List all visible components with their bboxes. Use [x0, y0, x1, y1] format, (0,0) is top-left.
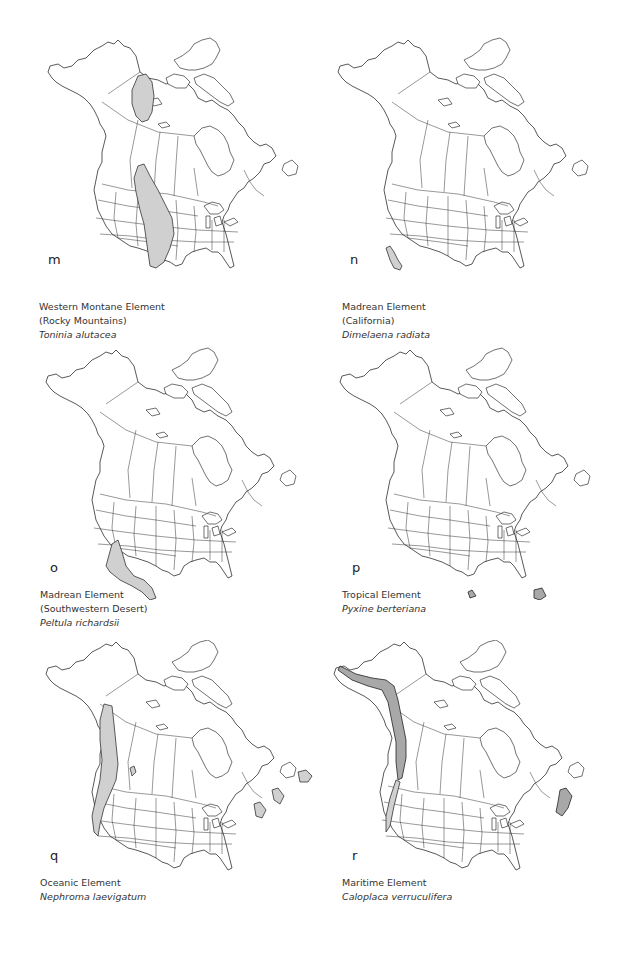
range-newfoundland: [298, 770, 312, 782]
element-subtitle: (California): [342, 314, 430, 328]
north-america-map: [320, 20, 640, 290]
panel-caption: Oceanic Element Nephroma laevigatum: [40, 876, 146, 904]
map-panel-r: r Maritime Element Caloplaca verruculife…: [320, 640, 640, 950]
range-atlantic-coast: [556, 788, 572, 816]
north-america-map: [320, 640, 640, 910]
panel-letter: p: [352, 560, 360, 575]
element-name: Western Montane Element: [39, 300, 165, 314]
species-name: Peltula richardsii: [40, 616, 148, 630]
range-south-texas: [468, 590, 476, 598]
element-name: Oceanic Element: [40, 876, 146, 890]
map-panel-p: p Tropical Element Pyxine berteriana: [320, 330, 640, 640]
map-panel-n: n Madrean Element (California) Dimelaena…: [320, 20, 640, 330]
element-name: Madrean Element: [40, 588, 148, 602]
panel-letter: q: [50, 848, 58, 863]
element-subtitle: (Southwestern Desert): [40, 602, 148, 616]
range-maritimes: [272, 788, 284, 804]
species-name: Caloplaca verruculifera: [342, 890, 452, 904]
map-panel-o: o Madrean Element (Southwestern Desert) …: [0, 330, 320, 640]
map-panel-q: q Oceanic Element Nephroma laevigatum: [0, 640, 320, 950]
map-panel-m: m Western Montane Element (Rocky Mountai…: [0, 20, 320, 330]
panel-letter: r: [352, 848, 357, 863]
north-america-map: [320, 330, 640, 600]
element-name: Tropical Element: [342, 588, 426, 602]
element-subtitle: (Rocky Mountains): [39, 314, 165, 328]
panel-letter: m: [48, 252, 61, 267]
range-southern-california: [386, 246, 402, 270]
panel-letter: n: [350, 252, 358, 267]
element-name: Maritime Element: [342, 876, 452, 890]
panel-caption: Maritime Element Caloplaca verruculifera: [342, 876, 452, 904]
north-america-map: [0, 20, 320, 290]
range-south-florida: [534, 588, 546, 600]
range-new-england: [254, 802, 266, 818]
panel-caption: Tropical Element Pyxine berteriana: [342, 588, 426, 616]
species-name: Nephroma laevigatum: [40, 890, 146, 904]
north-america-map: [0, 330, 320, 600]
north-america-map: [0, 640, 320, 910]
panel-caption: Madrean Element (Southwestern Desert) Pe…: [40, 588, 148, 630]
panel-letter: o: [50, 560, 58, 575]
element-name: Madrean Element: [342, 300, 430, 314]
species-name: Pyxine berteriana: [342, 602, 426, 616]
